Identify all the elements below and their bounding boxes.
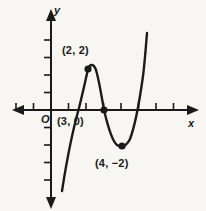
point-marker-zero — [100, 106, 107, 113]
coordinate-plane — [0, 0, 206, 211]
origin-label: O — [41, 113, 50, 125]
x-axis-label: x — [188, 117, 194, 129]
point-label-maximum: (2, 2) — [62, 44, 89, 56]
x-axis-right-arrowhead — [187, 105, 199, 115]
point-marker-maximum — [84, 65, 91, 72]
point-label-zero: (3, 0) — [57, 115, 84, 127]
cubic-function-graph-figure: (2, 2) (3, 0) (4, −2) y x O — [0, 0, 206, 211]
x-axis-left-arrowhead — [12, 105, 24, 115]
y-axis-label: y — [54, 4, 60, 16]
x-axis-ticks — [16, 103, 174, 110]
y-axis-down-arrowhead — [46, 197, 56, 209]
point-label-minimum: (4, −2) — [95, 157, 129, 169]
point-marker-minimum — [118, 142, 125, 149]
